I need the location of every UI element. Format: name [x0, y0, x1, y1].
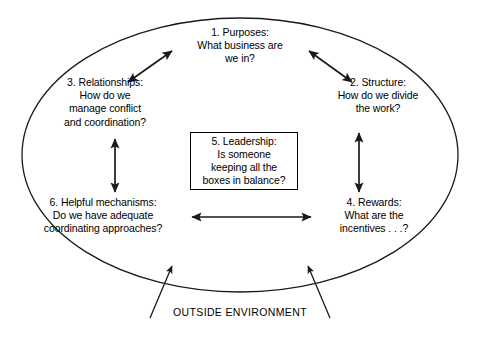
leadership-box: 5. Leadership: Is someone keeping all th… — [190, 132, 298, 190]
box-label-structure: 2. Structure: How do we divide the work? — [298, 76, 458, 116]
box-label-purposes: 1. Purposes: What business are we in? — [155, 26, 325, 66]
box-label-relationships: 3. Relationships: How do we manage confl… — [30, 76, 180, 129]
box-label-leadership: 5. Leadership: Is someone keeping all th… — [192, 135, 296, 188]
diagram-canvas: 1. Purposes: What business are we in? 2.… — [0, 0, 479, 338]
outside-environment-label: OUTSIDE ENVIRONMENT — [139, 306, 341, 318]
box-label-rewards: 4. Rewards: What are the incentives . . … — [300, 196, 448, 236]
box-label-helpful-mechanisms: 6. Helpful mechanisms: Do we have adequa… — [14, 196, 192, 236]
